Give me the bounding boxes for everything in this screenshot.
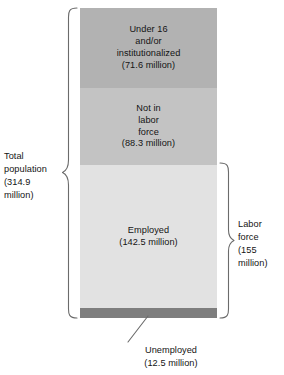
labor-force-label: Labor force (155 million) — [238, 218, 284, 270]
segment-not-in-labor-force-line-2: labor — [138, 115, 159, 127]
segment-not-in-labor-force: Not in labor force (88.3 million) — [80, 88, 217, 165]
segment-employed-value: (142.5 million) — [119, 237, 177, 249]
unemployed-callout-line-1: Unemployed — [106, 344, 236, 357]
total-population-label-line-4: million) — [4, 189, 62, 202]
labor-force-bracket-icon — [220, 163, 234, 318]
total-population-label-line-1: Total — [4, 150, 62, 163]
unemployed-callout-value: (12.5 million) — [106, 357, 236, 370]
segment-under-16-line-3: institutionalized — [117, 48, 181, 60]
labor-force-label-line-4: million) — [238, 257, 284, 270]
segment-employed-line-1: Employed — [128, 225, 169, 237]
unemployed-leader-line — [128, 316, 148, 342]
total-population-label-line-2: population — [4, 163, 62, 176]
segment-employed: Employed (142.5 million) — [80, 165, 217, 308]
labor-force-label-line-2: force — [238, 231, 284, 244]
segment-not-in-labor-force-line-1: Not in — [136, 103, 160, 115]
unemployed-callout-label: Unemployed (12.5 million) — [106, 344, 236, 370]
segment-under-16-value: (71.6 million) — [122, 60, 175, 72]
segment-not-in-labor-force-value: (88.3 million) — [122, 138, 175, 150]
segment-under-16-line-2: and/or — [135, 36, 161, 48]
labor-force-label-line-1: Labor — [238, 218, 284, 231]
population-labor-force-diagram: Under 16 and/or institutionalized (71.6 … — [0, 0, 284, 375]
total-population-label-line-3: (314.9 — [4, 176, 62, 189]
segment-under-16: Under 16 and/or institutionalized (71.6 … — [80, 8, 217, 88]
total-population-label: Total population (314.9 million) — [4, 150, 62, 202]
total-population-bracket-icon — [63, 8, 78, 318]
labor-force-label-line-3: (155 — [238, 244, 284, 257]
segment-unemployed — [80, 308, 217, 318]
segment-not-in-labor-force-line-3: force — [138, 127, 159, 139]
segment-under-16-line-1: Under 16 — [129, 24, 167, 36]
